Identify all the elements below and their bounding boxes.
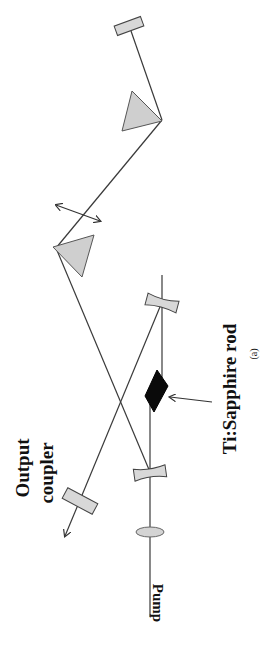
output-coupler-mirror — [62, 488, 98, 515]
crystal-pointer-arrow — [170, 397, 212, 402]
beam-prism1-to-prism2 — [56, 120, 162, 248]
pump-lens — [136, 527, 164, 537]
tuning-double-arrow — [56, 205, 100, 221]
pump-label: Pump — [150, 584, 166, 622]
ti-sapphire-rod-crystal — [145, 370, 168, 412]
laser-cavity-diagram: Output coupler Ti:Sapphire rod (a) Pump — [0, 0, 266, 654]
output-coupler-label-line1: Output — [12, 438, 33, 498]
prism-1 — [122, 91, 162, 131]
end-mirror — [114, 17, 144, 36]
output-coupler-label-line2: coupler — [36, 442, 57, 504]
beam-prism2-to-curved-mirror2 — [56, 248, 150, 472]
figure-tag: (a) — [248, 348, 260, 359]
crystal-label: Ti:Sapphire rod — [219, 323, 240, 454]
